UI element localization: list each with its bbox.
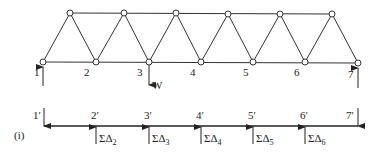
node-2 [93, 59, 99, 65]
node-label-1: 1 [34, 66, 40, 78]
top-node [67, 10, 73, 16]
node-label-4: 4 [190, 66, 196, 78]
top-node [329, 11, 335, 17]
top-node [277, 11, 283, 17]
node-7 [355, 60, 361, 66]
truss-members [43, 13, 358, 63]
top-node [173, 10, 179, 16]
prime-label-4: 4′ [196, 109, 204, 121]
node-label-2: 2 [84, 66, 90, 78]
force-label-2: ΣΔ2 [99, 132, 116, 147]
truss-diagram: 1 2 3 4 5 6 7 W (i) 1′ 2′ 3′ 4′ 5′ 6′ 7′ [0, 0, 374, 162]
force-label-3: ΣΔ3 [152, 132, 169, 147]
truss-nodes [40, 10, 361, 66]
force-label-5: ΣΔ5 [256, 132, 273, 147]
top-node [121, 10, 127, 16]
force-label-6: ΣΔ6 [308, 132, 325, 147]
node-label-3: 3 [137, 66, 143, 78]
influence-diagram: (i) 1′ 2′ 3′ 4′ 5′ 6′ 7′ ΣΔ2 ΣΔ3 ΣΔ4 ΣΔ5… [14, 108, 358, 147]
prime-label-5: 5′ [248, 109, 256, 121]
prime-label-6: 6′ [300, 109, 308, 121]
prime-label-3: 3′ [144, 109, 152, 121]
node-label-6: 6 [294, 66, 300, 78]
node-6 [302, 59, 308, 65]
top-node [225, 11, 231, 17]
node-4 [198, 59, 204, 65]
node-1 [40, 59, 46, 65]
node-label-7: 7 [348, 68, 354, 80]
prime-label-2: 2′ [91, 109, 99, 121]
prime-label-7: 7′ [346, 109, 354, 121]
node-3 [146, 59, 152, 65]
node-label-5: 5 [243, 66, 249, 78]
reaction-arrows: W [43, 65, 358, 91]
node-5 [250, 59, 256, 65]
part-label: (i) [14, 129, 25, 142]
prime-label-1: 1′ [33, 109, 41, 121]
load-label: W [152, 79, 163, 91]
node-labels: 1 2 3 4 5 6 7 [34, 66, 354, 80]
force-label-4: ΣΔ4 [204, 132, 221, 147]
